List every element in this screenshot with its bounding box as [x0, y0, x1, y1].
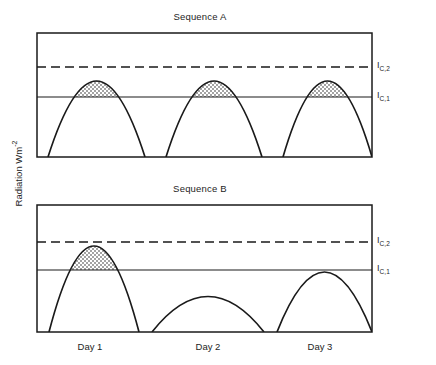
panel-a-title: Sequence A	[0, 11, 400, 22]
threshold-label-ic1-panel-b: IC,1	[377, 263, 390, 273]
threshold-label-subscript: C,1	[380, 95, 390, 102]
y-axis-label-text: Radiation Wm	[13, 147, 24, 207]
radiation-curve-day-3	[277, 272, 372, 332]
radiation-sequence-figure: Sequence A Sequence B Radiation Wm-2 IC,…	[0, 0, 436, 365]
threshold-label-ic2-panel-a: IC,2	[377, 60, 390, 70]
panel-b-shaded-areas	[49, 246, 372, 332]
x-axis-tick-day-2: Day 2	[178, 341, 238, 352]
threshold-label-subscript: C,1	[380, 268, 390, 275]
panel-sequence-b	[37, 205, 372, 332]
threshold-label-ic1-panel-a: IC,1	[377, 90, 390, 100]
panel-sequence-a	[37, 33, 372, 157]
x-axis-tick-day-3: Day 3	[290, 341, 350, 352]
panel-b-title: Sequence B	[0, 183, 400, 194]
panel-a-shaded-areas	[48, 81, 372, 157]
y-axis-label: Radiation Wm-2	[13, 114, 24, 234]
threshold-label-subscript: C,2	[380, 240, 390, 247]
x-axis-tick-day-1: Day 1	[60, 341, 120, 352]
threshold-label-subscript: C,2	[380, 65, 390, 72]
radiation-curve-day-2	[152, 297, 264, 333]
threshold-label-ic2-panel-b: IC,2	[377, 235, 390, 245]
y-axis-label-exponent: -2	[11, 141, 18, 147]
